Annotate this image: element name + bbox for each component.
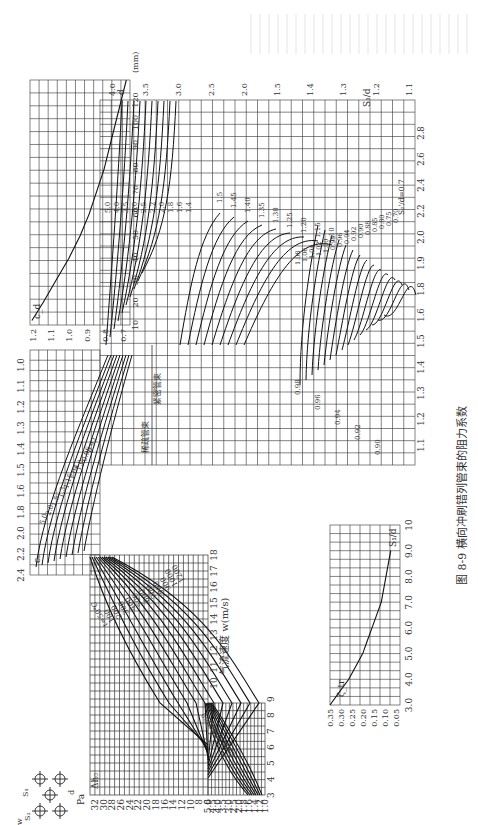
svg-text:气流速度 w(m/s): 气流速度 w(m/s) [218, 597, 230, 675]
svg-text:S₂: S₂ [23, 812, 32, 821]
svg-text:图 8-9 横向冲刷错列管束的阻力系数: 图 8-9 横向冲刷错列管束的阻力系数 [455, 406, 469, 585]
svg-text:Pa: Pa [76, 793, 86, 805]
svg-text:15: 15 [209, 597, 219, 609]
svg-text:1.0: 1.0 [16, 358, 26, 372]
svg-text:1.4: 1.4 [306, 83, 315, 96]
cd-vs-diameter-chart: 1020304050607080901001201.21.11.00.90.80… [29, 52, 140, 342]
svg-text:17: 17 [209, 565, 219, 577]
svg-text:24: 24 [125, 799, 135, 811]
svg-text:2.5: 2.5 [207, 83, 216, 96]
svg-text:2.0: 2.0 [240, 83, 249, 96]
svg-text:6.0: 6.0 [404, 620, 414, 635]
svg-text:60: 60 [131, 207, 140, 217]
svg-text:0.15: 0.15 [370, 709, 379, 727]
svg-text:3.0: 3.0 [174, 83, 183, 96]
svg-text:S₂'/d=0.7: S₂'/d=0.7 [397, 179, 406, 215]
svg-text:1.6: 1.6 [416, 308, 426, 322]
svg-text:2.4: 2.4 [416, 178, 426, 192]
svg-text:1.2: 1.2 [16, 400, 26, 414]
svg-text:9.0: 9.0 [404, 543, 414, 558]
svg-text:1.2: 1.2 [416, 412, 426, 426]
svg-text:28: 28 [107, 799, 117, 811]
tube-bank-diagram [32, 771, 68, 819]
svg-text:90: 90 [131, 140, 140, 150]
svg-text:3.5: 3.5 [141, 83, 150, 96]
svg-text:0.94: 0.94 [334, 409, 342, 425]
svg-text:70: 70 [131, 185, 140, 195]
svg-text:1.8: 1.8 [167, 202, 175, 213]
svg-text:20: 20 [142, 799, 152, 811]
svg-text:7: 7 [266, 728, 276, 734]
svg-text:4: 4 [266, 776, 276, 782]
svg-text:0.92: 0.92 [354, 424, 362, 440]
svg-text:0.96: 0.96 [314, 394, 322, 410]
svg-text:3: 3 [266, 792, 276, 798]
svg-text:2.0: 2.0 [416, 230, 426, 244]
svg-text:2.8: 2.8 [416, 126, 426, 140]
svg-text:14: 14 [168, 799, 178, 811]
svg-text:0.05: 0.05 [392, 709, 401, 727]
svg-text:1.35: 1.35 [258, 202, 266, 218]
svg-text:12: 12 [177, 799, 187, 810]
svg-text:1.8: 1.8 [416, 282, 426, 296]
svg-text:8.0: 8.0 [404, 569, 414, 584]
svg-text:8: 8 [266, 712, 276, 718]
svg-text:1.8: 1.8 [16, 505, 26, 519]
svg-text:2.2: 2.2 [416, 204, 426, 218]
svg-text:1.3: 1.3 [416, 386, 426, 400]
svg-text:0.7: 0.7 [119, 329, 128, 342]
svg-text:1.3: 1.3 [16, 421, 26, 435]
svg-text:2.4: 2.4 [16, 568, 26, 582]
svg-text:22: 22 [133, 799, 143, 810]
svg-text:1.6: 1.6 [16, 484, 26, 498]
svg-text:1.1: 1.1 [47, 329, 56, 342]
svg-text:100: 100 [131, 115, 140, 130]
svg-text:11: 11 [209, 661, 219, 672]
svg-text:10: 10 [404, 519, 414, 531]
bleed-through-text [250, 14, 470, 54]
svg-text:0.10: 0.10 [381, 709, 390, 727]
svg-text:1.9: 1.9 [416, 256, 426, 270]
svg-text:0.8: 0.8 [101, 329, 110, 342]
svg-text:0.30: 0.30 [337, 709, 346, 727]
svg-text:20: 20 [131, 297, 140, 307]
svg-text:(mm): (mm) [131, 52, 140, 73]
svg-text:1.1: 1.1 [16, 379, 26, 393]
svg-text:d: d [116, 89, 126, 95]
svg-text:0.35: 0.35 [326, 709, 335, 727]
svg-text:2.2: 2.2 [149, 202, 157, 213]
svg-text:S₁/d: S₁/d [388, 528, 398, 547]
svg-text:1.4: 1.4 [185, 201, 193, 213]
svg-text:1.6: 1.6 [176, 201, 184, 213]
svg-text:1.15: 1.15 [314, 222, 322, 238]
svg-text:6: 6 [266, 744, 276, 750]
svg-text:稀疏管束: 稀疏管束 [140, 421, 150, 453]
svg-text:2.2: 2.2 [16, 547, 26, 561]
svg-text:紧密管束: 紧密管束 [152, 373, 162, 405]
svg-text:40: 40 [131, 252, 140, 262]
svg-text:0.25: 0.25 [348, 709, 357, 727]
svg-text:1.30: 1.30 [272, 207, 280, 223]
svg-text:S₁/d: S₁/d [362, 88, 372, 107]
svg-text:7.0: 7.0 [404, 595, 414, 610]
svg-text:1.2: 1.2 [372, 83, 381, 96]
svg-text:3.0: 3.0 [404, 698, 414, 713]
svg-text:1.20: 1.20 [300, 217, 308, 233]
svg-text:26: 26 [116, 799, 126, 811]
svg-text:5.0: 5.0 [203, 799, 213, 814]
cs-correction-chart: 2.42.22.01.81.61.51.41.31.21.11.01.11.21… [16, 83, 426, 582]
svg-text:2.0: 2.0 [16, 526, 26, 540]
svg-text:5.0: 5.0 [104, 202, 112, 213]
svg-text:10: 10 [209, 677, 219, 689]
svg-text:0.98: 0.98 [294, 379, 302, 395]
svg-text:10: 10 [131, 320, 140, 330]
svg-text:4.0: 4.0 [113, 202, 121, 213]
nomogram-figure: 3456789101112131415161718681012141618202… [0, 0, 478, 825]
svg-text:18: 18 [151, 799, 161, 811]
svg-text:1.5: 1.5 [273, 83, 282, 96]
svg-text:10: 10 [186, 799, 196, 811]
svg-text:d: d [67, 790, 76, 795]
svg-text:120: 120 [131, 92, 140, 107]
svg-text:1.4: 1.4 [16, 442, 26, 456]
svg-text:1.3: 1.3 [339, 83, 348, 96]
